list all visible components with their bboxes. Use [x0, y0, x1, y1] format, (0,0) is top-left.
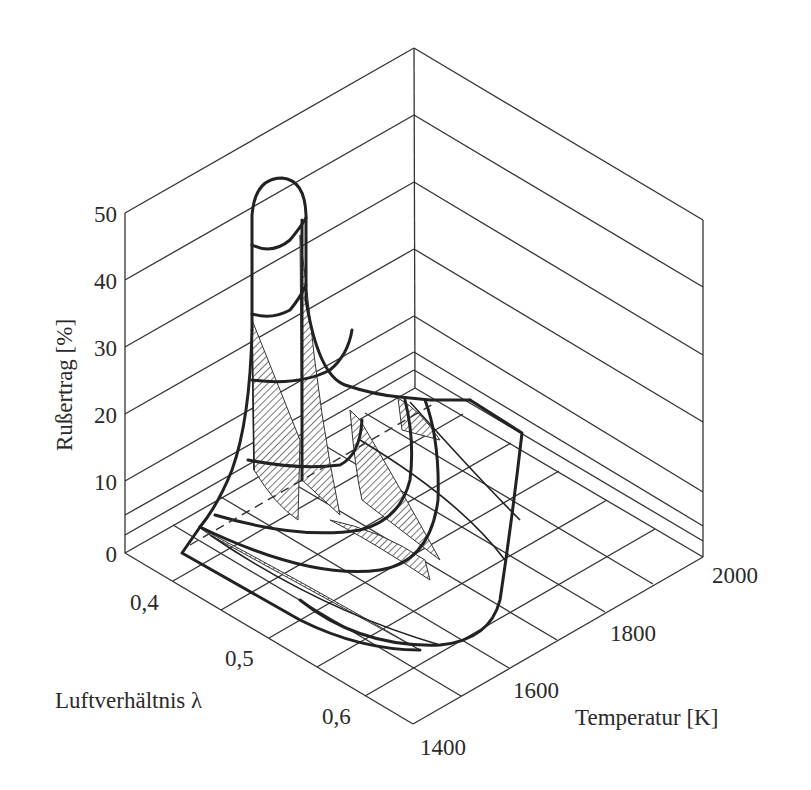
y-tick-2000: 2000 [712, 563, 758, 588]
y-tick-1400: 1400 [420, 735, 466, 760]
surface-chart: 50 40 30 20 10 0 Rußertrag [%] 0,4 0,5 0… [0, 0, 811, 790]
z-axis-label: Rußertrag [%] [52, 319, 77, 451]
z-tick-10: 10 [94, 470, 117, 495]
z-tick-50: 50 [94, 202, 117, 227]
y-axis-ticks: 2000 1800 1600 1400 [420, 563, 758, 760]
z-tick-20: 20 [94, 403, 117, 428]
y-tick-1800: 1800 [610, 621, 656, 646]
right-back-wall [414, 48, 703, 557]
y-axis-label: Temperatur [K] [575, 705, 718, 730]
x-tick-0-4: 0,4 [130, 590, 159, 615]
z-tick-30: 30 [94, 336, 117, 361]
x-axis-label: Luftverhältnis λ [55, 688, 203, 713]
z-axis-ticks: 50 40 30 20 10 0 [94, 202, 117, 567]
y-tick-1600: 1600 [513, 678, 559, 703]
surface-hatching [200, 235, 440, 650]
x-tick-0-5: 0,5 [225, 646, 254, 671]
z-tick-40: 40 [94, 269, 117, 294]
z-tick-0: 0 [106, 542, 118, 567]
x-tick-0-6: 0,6 [322, 704, 351, 729]
